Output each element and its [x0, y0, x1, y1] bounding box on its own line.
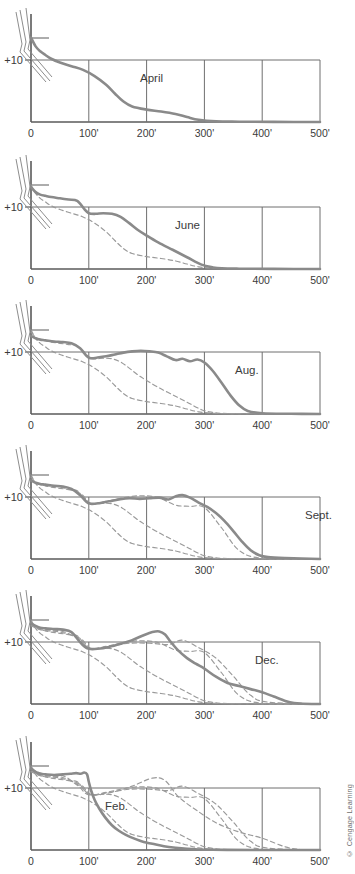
- x-tick-label: 0: [28, 855, 34, 867]
- copyright-credit: © Cengage Learning: [345, 784, 354, 858]
- month-label: June: [175, 219, 200, 231]
- elevation-label: +10: [4, 491, 23, 503]
- x-tick-label: 500': [310, 855, 330, 867]
- x-tick-label: 200': [137, 127, 157, 139]
- x-tick-label: 200': [137, 564, 157, 576]
- x-tick-label: 300': [195, 709, 215, 721]
- solid-profile-aug: [31, 336, 320, 414]
- x-axis-tick-labels: 0100'200'300'400'500': [28, 274, 330, 286]
- elevation-label: +10: [4, 54, 23, 66]
- x-axis-tick-labels: 0100'200'300'400'500': [28, 419, 330, 431]
- x-tick-label: 0: [28, 709, 34, 721]
- x-tick-label: 100': [79, 855, 99, 867]
- x-tick-label: 0: [28, 127, 34, 139]
- x-tick-label: 400': [252, 419, 272, 431]
- x-tick-label: 400': [252, 564, 272, 576]
- dashed-profile-april: [31, 475, 320, 559]
- vertical-gridlines: [89, 788, 262, 850]
- beach-profile-figure: +10April0100'200'300'400'500'+10June0100…: [0, 0, 355, 874]
- plot-box: [31, 742, 320, 850]
- x-tick-label: 500': [310, 127, 330, 139]
- x-tick-label: 500': [310, 274, 330, 286]
- x-tick-label: 300': [195, 419, 215, 431]
- x-tick-label: 500': [310, 709, 330, 721]
- vertical-gridlines: [89, 642, 262, 704]
- x-axis-tick-labels: 0100'200'300'400'500': [28, 127, 330, 139]
- x-tick-label: 0: [28, 564, 34, 576]
- x-tick-label: 200': [137, 855, 157, 867]
- dashed-profile-april: [31, 766, 320, 850]
- x-tick-label: 300': [195, 127, 215, 139]
- x-tick-label: 200': [137, 274, 157, 286]
- vertical-gridlines: [89, 497, 262, 559]
- dashed-profile-june: [31, 768, 320, 850]
- x-axis-tick-labels: 0100'200'300'400'500': [28, 564, 330, 576]
- vertical-gridlines: [89, 207, 262, 269]
- x-tick-label: 300': [195, 564, 215, 576]
- profile-panel-sept: +10Sept.0100'200'300'400'500': [0, 437, 355, 583]
- x-tick-label: 200': [137, 419, 157, 431]
- x-tick-label: 0: [28, 274, 34, 286]
- dashed-profile-april: [31, 330, 320, 414]
- x-axis-tick-labels: 0100'200'300'400'500': [28, 855, 330, 867]
- x-tick-label: 100': [79, 419, 99, 431]
- x-tick-label: 400': [252, 855, 272, 867]
- elevation-label: +10: [4, 201, 23, 213]
- x-tick-label: 100': [79, 274, 99, 286]
- plot-box: [31, 161, 320, 269]
- profile-panel-aug: +10Aug.0100'200'300'400'500': [0, 292, 355, 438]
- month-label: Aug.: [235, 364, 259, 376]
- month-label: April: [140, 72, 163, 84]
- x-tick-label: 500': [310, 419, 330, 431]
- x-tick-label: 500': [310, 564, 330, 576]
- month-label: Dec.: [255, 654, 279, 666]
- plot-box: [31, 451, 320, 559]
- x-tick-label: 100': [79, 564, 99, 576]
- profile-panel-april: +10April0100'200'300'400'500': [0, 0, 355, 146]
- x-tick-label: 400': [252, 274, 272, 286]
- x-tick-label: 100': [79, 709, 99, 721]
- x-tick-label: 300': [195, 855, 215, 867]
- x-tick-label: 400': [252, 127, 272, 139]
- profile-panel-feb: +10Feb.0100'200'300'400'500': [0, 728, 355, 874]
- elevation-label: +10: [4, 346, 23, 358]
- x-axis-tick-labels: 0100'200'300'400'500': [28, 709, 330, 721]
- x-tick-label: 300': [195, 274, 215, 286]
- dashed-profile-dec: [31, 769, 320, 850]
- x-tick-label: 400': [252, 709, 272, 721]
- month-label: Feb.: [105, 800, 128, 812]
- elevation-label: +10: [4, 782, 23, 794]
- solid-profile-april: [31, 38, 320, 122]
- profile-panel-dec: +10Dec.0100'200'300'400'500': [0, 582, 355, 728]
- elevation-label: +10: [4, 636, 23, 648]
- dashed-profile-aug: [31, 481, 320, 559]
- month-label: Sept.: [305, 509, 332, 521]
- profile-panel-june: +10June0100'200'300'400'500': [0, 147, 355, 293]
- x-tick-label: 200': [137, 709, 157, 721]
- plot-box: [31, 596, 320, 704]
- x-tick-label: 0: [28, 419, 34, 431]
- solid-profile-sept: [31, 480, 320, 559]
- x-tick-label: 100': [79, 127, 99, 139]
